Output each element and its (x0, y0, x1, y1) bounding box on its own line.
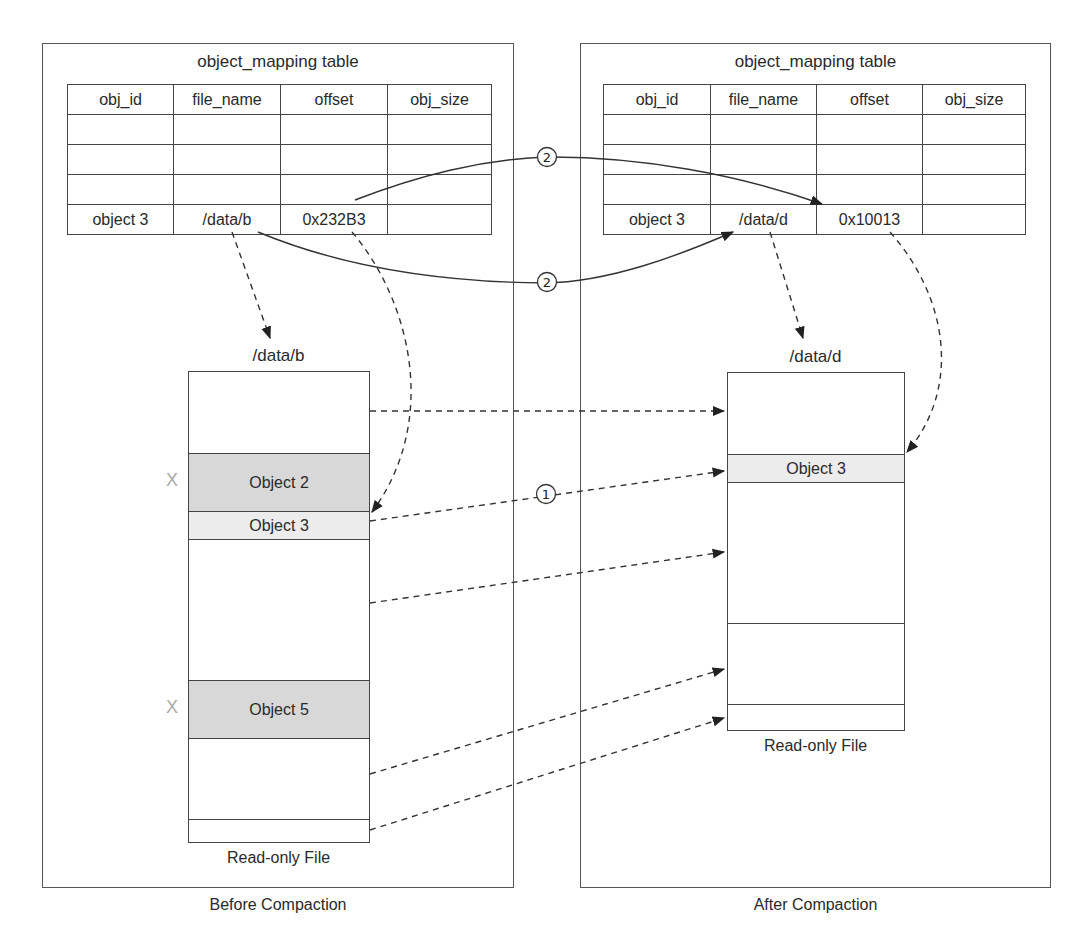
file-segment (189, 738, 369, 819)
header-obj-id: obj_id (604, 85, 711, 115)
after-file-name: /data/d (727, 347, 904, 367)
cell (604, 115, 711, 145)
file-segment-object-5: Object 5 (189, 680, 369, 738)
header-file-name: file_name (711, 85, 817, 115)
table-row: object 3 /data/d 0x10013 (604, 205, 1026, 235)
file-segment (728, 482, 904, 623)
svg-text:2: 2 (543, 150, 551, 165)
segment-label: Object 2 (249, 474, 309, 492)
cell (711, 175, 817, 205)
cell-offset: 0x232B3 (281, 205, 388, 235)
cell (281, 115, 388, 145)
after-table-title: object_mapping table (580, 52, 1051, 72)
header-file-name: file_name (174, 85, 281, 115)
cell (281, 175, 388, 205)
cell (923, 175, 1026, 205)
cell (281, 145, 388, 175)
before-read-only-file: Object 2 Object 3 Object 5 (188, 371, 370, 843)
header-offset: offset (281, 85, 388, 115)
file-segment (728, 623, 904, 704)
file-segment-object-3: Object 3 (189, 511, 369, 539)
step-marker-2-top: 2 (538, 148, 557, 167)
cell (817, 145, 923, 175)
file-segment (189, 371, 369, 453)
before-file-name: /data/b (188, 346, 369, 366)
cell (923, 115, 1026, 145)
deleted-x-mark-object-2: X (166, 470, 178, 491)
header-offset: offset (817, 85, 923, 115)
file-segment-object-2: Object 2 (189, 453, 369, 511)
cell-obj-id: object 3 (604, 205, 711, 235)
table-header-row: obj_id file_name offset obj_size (604, 85, 1026, 115)
file-segment (728, 704, 904, 731)
file-segment (189, 819, 369, 843)
before-file-footer: Read-only File (188, 849, 369, 867)
cell (711, 145, 817, 175)
segment-label: Object 3 (249, 517, 309, 535)
header-obj-size: obj_size (923, 85, 1026, 115)
table-row (68, 175, 492, 205)
step-marker-2-bottom: 2 (538, 273, 557, 292)
cell (174, 115, 281, 145)
cell (388, 145, 492, 175)
table-header-row: obj_id file_name offset obj_size (68, 85, 492, 115)
cell (174, 145, 281, 175)
cell (604, 175, 711, 205)
cell (68, 145, 174, 175)
svg-text:1: 1 (542, 487, 550, 502)
segment-label: Object 5 (249, 701, 309, 719)
cell (174, 175, 281, 205)
table-row (604, 115, 1026, 145)
cell (68, 175, 174, 205)
cell (388, 115, 492, 145)
segment-label: Object 3 (786, 460, 846, 478)
cell (817, 175, 923, 205)
header-obj-id: obj_id (68, 85, 174, 115)
table-row (604, 175, 1026, 205)
cell-file-name: /data/d (711, 205, 817, 235)
deleted-x-mark-object-5: X (166, 697, 178, 718)
cell (923, 145, 1026, 175)
before-table-title: object_mapping table (42, 52, 514, 72)
cell (68, 115, 174, 145)
cell (604, 145, 711, 175)
svg-text:2: 2 (543, 275, 551, 290)
cell-offset: 0x10013 (817, 205, 923, 235)
before-object-mapping-table: obj_id file_name offset obj_size object … (67, 84, 492, 235)
header-obj-size: obj_size (388, 85, 492, 115)
file-segment (728, 372, 904, 454)
cell-obj-size (388, 205, 492, 235)
cell (817, 115, 923, 145)
cell (711, 115, 817, 145)
after-file-footer: Read-only File (727, 737, 904, 755)
table-row (604, 145, 1026, 175)
after-read-only-file: Object 3 (727, 372, 905, 731)
cell-file-name: /data/b (174, 205, 281, 235)
table-row: object 3 /data/b 0x232B3 (68, 205, 492, 235)
before-compaction-caption: Before Compaction (42, 896, 514, 914)
cell (388, 175, 492, 205)
after-compaction-caption: After Compaction (580, 896, 1051, 914)
table-row (68, 145, 492, 175)
cell-obj-id: object 3 (68, 205, 174, 235)
step-marker-1: 1 (537, 485, 556, 504)
after-object-mapping-table: obj_id file_name offset obj_size object … (603, 84, 1026, 235)
file-segment-object-3: Object 3 (728, 454, 904, 482)
cell-obj-size (923, 205, 1026, 235)
table-row (68, 115, 492, 145)
file-segment (189, 539, 369, 680)
